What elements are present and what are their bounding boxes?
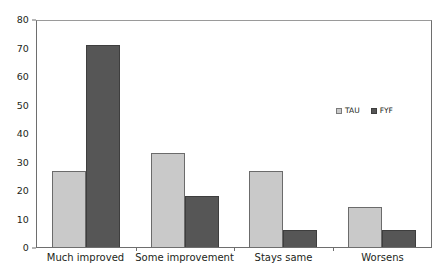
x-axis-label: Worsens [333,252,432,263]
bar-group [136,21,235,247]
y-axis-tick-label: 80 [17,15,29,25]
x-axis-tick-mark [234,247,235,251]
y-axis-tick-label: 30 [17,158,29,168]
bar-group [234,21,333,247]
x-axis-label: Stays same [234,252,333,263]
plot-area [36,20,432,248]
legend-label: TAU [345,107,360,115]
bar-groups [37,21,431,247]
y-axis-tick-label: 40 [17,129,29,139]
legend-item-fyf: FYF [371,107,393,115]
y-axis-tick-label: 60 [17,72,29,82]
bar-group [333,21,432,247]
x-axis-label: Much improved [36,252,135,263]
y-axis-tick-label: 70 [17,44,29,54]
bar-tau [52,171,86,247]
bar-fyf [382,230,416,247]
x-axis-tick-mark [136,247,137,251]
bar-group [37,21,136,247]
y-axis-tick-label: 10 [17,215,29,225]
bar-fyf [283,230,317,247]
y-axis-tick-label: 0 [23,243,29,253]
bar-tau [348,207,382,247]
bar-tau [151,153,185,247]
legend-label: FYF [380,107,393,115]
y-axis-tick-label: 50 [17,101,29,111]
x-axis-labels: Much improvedSome improvementStays sameW… [36,252,432,263]
bar-tau [249,171,283,247]
y-axis-tick-label: 20 [17,186,29,196]
y-axis: 01020304050607080 [0,20,36,248]
x-axis-tick-mark [333,247,334,251]
bar-fyf [86,45,120,247]
bar-fyf [185,196,219,247]
legend-swatch-tau-icon [336,108,342,114]
legend-swatch-fyf-icon [371,108,377,114]
legend-item-tau: TAU [336,107,360,115]
x-axis-label: Some improvement [135,252,234,263]
bar-chart: 01020304050607080 Much improvedSome impr… [0,0,443,279]
chart-legend: TAUFYF [336,107,393,115]
